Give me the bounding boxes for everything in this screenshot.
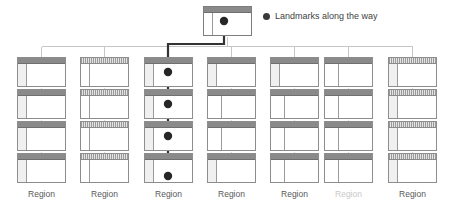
region-label: Region xyxy=(207,189,256,200)
card-sidebar-column xyxy=(204,13,213,35)
card-sidebar-column xyxy=(325,96,339,118)
card-sidebar-column xyxy=(271,128,285,150)
page-card[interactable] xyxy=(80,153,129,183)
card-sidebar-column xyxy=(208,128,222,150)
region-label: Region xyxy=(324,189,373,200)
card-sidebar-column xyxy=(208,64,217,86)
page-card[interactable] xyxy=(388,153,437,183)
card-sidebar-column xyxy=(18,64,27,86)
page-card[interactable] xyxy=(144,121,193,151)
card-sidebar-column xyxy=(325,64,339,86)
card-sidebar-column xyxy=(271,64,280,86)
page-card[interactable] xyxy=(270,89,319,119)
legend: Landmarks along the way xyxy=(263,11,378,22)
card-sidebar-column xyxy=(271,96,285,118)
landmark-dot-icon xyxy=(263,13,270,20)
card-sidebar-column xyxy=(81,160,90,182)
card-sidebar-column xyxy=(81,128,90,150)
hierarchy-connectors xyxy=(42,37,413,58)
page-card[interactable] xyxy=(144,153,193,183)
page-card[interactable] xyxy=(207,89,256,119)
page-card[interactable] xyxy=(17,153,66,183)
legend-label: Landmarks along the way xyxy=(275,11,378,22)
page-card[interactable] xyxy=(324,121,373,151)
region-label: Region xyxy=(144,189,193,200)
card-sidebar-column xyxy=(325,128,339,150)
page-card[interactable] xyxy=(388,121,437,151)
page-card[interactable] xyxy=(17,89,66,119)
page-card[interactable] xyxy=(17,121,66,151)
card-sidebar-column xyxy=(389,96,398,118)
page-card[interactable] xyxy=(207,57,256,87)
page-card[interactable] xyxy=(388,57,437,87)
page-card[interactable] xyxy=(270,57,319,87)
page-card[interactable] xyxy=(80,89,129,119)
page-card[interactable] xyxy=(207,121,256,151)
region-label: Region xyxy=(388,189,437,200)
card-sidebar-column xyxy=(325,160,339,182)
page-card[interactable] xyxy=(207,153,256,183)
region-label: Region xyxy=(17,189,66,200)
card-sidebar-column xyxy=(81,96,90,118)
card-sidebar-column xyxy=(389,64,398,86)
root-page-card[interactable] xyxy=(203,6,252,36)
page-card[interactable] xyxy=(144,57,193,87)
region-label: Region xyxy=(270,189,319,200)
card-sidebar-column xyxy=(389,128,398,150)
page-card[interactable] xyxy=(324,57,373,87)
card-sidebar-column xyxy=(145,128,154,150)
page-card[interactable] xyxy=(270,153,319,183)
page-card[interactable] xyxy=(80,121,129,151)
card-sidebar-column xyxy=(18,160,27,182)
card-sidebar-column xyxy=(81,64,90,86)
card-sidebar-column xyxy=(145,160,154,182)
card-sidebar-column xyxy=(145,64,154,86)
page-card[interactable] xyxy=(388,89,437,119)
region-label: Region xyxy=(80,189,129,200)
card-sidebar-column xyxy=(389,160,398,182)
page-card[interactable] xyxy=(324,89,373,119)
page-card[interactable] xyxy=(270,121,319,151)
page-card[interactable] xyxy=(17,57,66,87)
sitemap-diagram: Region Region Region Region Region Regio… xyxy=(0,0,452,215)
page-card[interactable] xyxy=(80,57,129,87)
card-sidebar-column xyxy=(18,96,27,118)
card-sidebar-column xyxy=(145,96,154,118)
page-card[interactable] xyxy=(324,153,373,183)
card-sidebar-column xyxy=(208,96,222,118)
card-sidebar-column xyxy=(208,160,217,182)
page-card[interactable] xyxy=(144,89,193,119)
card-sidebar-column xyxy=(18,128,27,150)
card-sidebar-column xyxy=(271,160,285,182)
